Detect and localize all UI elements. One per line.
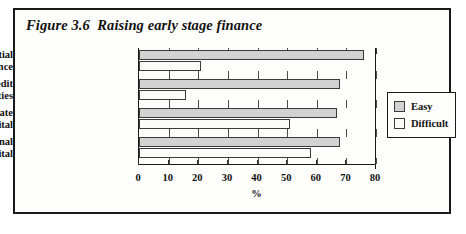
bar-difficult <box>139 119 290 129</box>
x-tick-mark-minor <box>228 135 229 137</box>
x-tick-mark-minor <box>198 48 199 50</box>
x-tick-label: 50 <box>281 172 292 183</box>
category-label-line: Raising initial <box>0 49 13 61</box>
x-tick-mark-minor <box>317 106 318 108</box>
x-tick-mark-minor <box>287 48 288 50</box>
x-tick-mark-minor <box>198 135 199 137</box>
x-tick-mark-minor <box>198 106 199 108</box>
x-tick-mark-minor <box>376 158 377 164</box>
x-tick-label: 20 <box>192 172 203 183</box>
x-tick-mark-minor <box>317 77 318 79</box>
x-tick-mark-minor <box>376 48 377 50</box>
chart-legend: EasyDifficult <box>387 92 456 138</box>
category-label: Maintaining adequateworking capital <box>0 107 13 130</box>
bar-difficult <box>139 61 201 71</box>
x-tick-mark <box>138 160 139 165</box>
bar-group <box>139 48 375 77</box>
bar-group <box>139 106 375 135</box>
x-tick-label: 10 <box>162 172 173 183</box>
x-tick-mark-minor <box>169 77 170 79</box>
x-axis: 01020304050607080 <box>138 164 375 165</box>
bar-easy <box>139 50 364 60</box>
category-axis-labels: Raising initialfinanceObtaining creditfa… <box>0 48 13 164</box>
category-label: Raising additionalworking capital <box>0 136 13 159</box>
x-tick-mark-minor <box>376 106 377 108</box>
category-label-line: Maintaining adequate <box>0 107 13 119</box>
legend-item: Difficult <box>394 115 448 132</box>
x-tick-mark-minor <box>317 135 318 137</box>
category-label-line: Obtaining credit <box>0 78 13 90</box>
x-tick-mark <box>168 160 169 165</box>
bar-group <box>139 77 375 106</box>
x-tick-mark-minor <box>346 135 347 137</box>
bar-easy <box>139 108 337 118</box>
x-tick-label: 30 <box>222 172 233 183</box>
x-tick-mark-minor <box>258 77 259 79</box>
x-tick-mark <box>316 160 317 165</box>
x-tick-mark-minor <box>258 106 259 108</box>
x-tick-mark <box>286 160 287 165</box>
x-tick-mark-minor <box>346 106 347 108</box>
category-label-line: finance <box>0 61 13 73</box>
x-tick-mark-minor <box>376 135 377 137</box>
x-tick-mark-minor <box>287 77 288 79</box>
figure-title: Figure 3.6 Raising early stage finance <box>26 17 262 34</box>
x-tick-mark <box>197 160 198 165</box>
x-tick-mark-minor <box>346 77 347 79</box>
x-tick-mark-minor <box>258 48 259 50</box>
x-tick-mark-minor <box>346 48 347 50</box>
x-tick-mark <box>345 160 346 165</box>
x-tick-mark-minor <box>376 77 377 79</box>
plot-right-border <box>375 48 376 169</box>
x-tick-mark <box>227 160 228 165</box>
x-tick-label: 60 <box>311 172 322 183</box>
bar-difficult <box>139 90 186 100</box>
legend-swatch-icon <box>394 118 405 129</box>
bar-difficult <box>139 148 311 158</box>
category-label: Raising initialfinance <box>0 49 13 72</box>
x-tick-label: 0 <box>135 172 140 183</box>
x-tick-label: 40 <box>251 172 262 183</box>
category-label-line: working capital <box>0 148 13 160</box>
x-tick-mark-minor <box>169 135 170 137</box>
figure-frame: Figure 3.6 Raising early stage finance R… <box>13 8 451 214</box>
category-label: Obtaining creditfacilities <box>0 78 13 101</box>
x-axis-title: % <box>138 188 375 199</box>
plot-area <box>138 48 375 164</box>
legend-item: Easy <box>394 98 448 115</box>
x-tick-mark-minor <box>169 48 170 50</box>
category-label-line: working capital <box>0 119 13 131</box>
x-tick-mark-minor <box>317 48 318 50</box>
x-tick-label: 70 <box>340 172 351 183</box>
x-tick-mark-minor <box>198 77 199 79</box>
x-tick-mark-minor <box>287 135 288 137</box>
category-label-line: Raising additional <box>0 136 13 148</box>
legend-label: Difficult <box>411 118 448 129</box>
x-tick-mark <box>375 160 376 165</box>
x-tick-mark-minor <box>228 48 229 50</box>
bar-easy <box>139 79 340 89</box>
bar-easy <box>139 137 340 147</box>
x-tick-mark-minor <box>169 106 170 108</box>
x-tick-mark-minor <box>258 135 259 137</box>
x-tick-mark-minor <box>228 77 229 79</box>
x-tick-label: 80 <box>370 172 381 183</box>
x-tick-mark-minor <box>287 106 288 108</box>
x-tick-mark-minor <box>228 106 229 108</box>
x-tick-mark <box>257 160 258 165</box>
legend-label: Easy <box>411 101 433 112</box>
legend-swatch-icon <box>394 101 405 112</box>
category-label-line: facilities <box>0 90 13 102</box>
